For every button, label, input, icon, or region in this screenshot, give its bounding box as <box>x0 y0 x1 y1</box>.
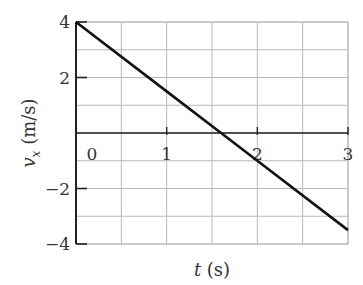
velocity-time-chart: 42−2−4 0123 vx (m/s) t (s) <box>0 0 363 285</box>
y-tick-label: −2 <box>45 179 70 199</box>
x-tick-label: 1 <box>161 144 172 164</box>
y-tick-label: 2 <box>59 68 70 88</box>
y-tick-label: 4 <box>59 12 70 32</box>
y-tick-label: −4 <box>45 234 70 254</box>
x-tick-label: 0 <box>87 144 98 164</box>
y-tick-labels: 42−2−4 <box>45 12 70 254</box>
x-tick-label: 3 <box>343 144 354 164</box>
y-axis-label: vx (m/s) <box>18 98 43 167</box>
x-axis-label: t (s) <box>194 259 230 280</box>
